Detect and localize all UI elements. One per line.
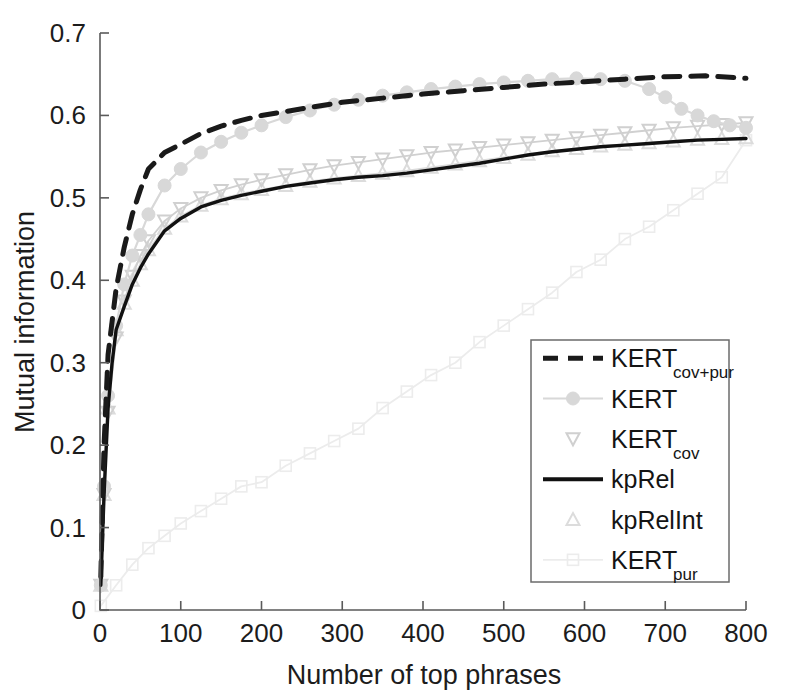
x-tick-label: 300 [321, 618, 364, 648]
data-point-marker [740, 121, 753, 134]
x-tick-label: 400 [401, 618, 444, 648]
y-tick-label: 0.7 [50, 18, 86, 48]
legend-label: KERT [611, 425, 677, 453]
data-point-marker [215, 135, 228, 148]
legend-label: KERT [611, 385, 677, 413]
data-point-marker [255, 119, 268, 132]
data-point-marker [707, 115, 720, 128]
y-tick-label: 0.1 [50, 513, 86, 543]
data-point-marker [194, 146, 207, 159]
data-point-marker [158, 179, 171, 192]
legend-label: kpRelInt [611, 506, 703, 534]
x-tick-label: 0 [93, 618, 107, 648]
chart-canvas: 00.10.20.30.40.50.60.7010020030040050060… [0, 0, 786, 699]
x-tick-label: 200 [240, 618, 283, 648]
y-tick-label: 0.2 [50, 430, 86, 460]
x-axis-title: Number of top phrases [287, 660, 562, 690]
data-point-marker [174, 163, 187, 176]
data-point-marker [235, 126, 248, 139]
legend-label: KERT [611, 344, 677, 372]
data-point-marker [691, 109, 704, 122]
data-point-marker [675, 102, 688, 115]
legend-sample-marker [567, 392, 580, 405]
legend-label: KERT [611, 546, 677, 574]
legend: KERTcov+purKERTKERTcovkpRelkpRelIntKERTp… [531, 340, 734, 584]
data-point-marker [126, 249, 139, 262]
data-point-marker [134, 228, 147, 241]
y-tick-label: 0.3 [50, 348, 86, 378]
data-point-marker [643, 83, 656, 96]
x-tick-label: 800 [724, 618, 767, 648]
x-tick-label: 500 [482, 618, 525, 648]
y-axis-title: Mutual information [10, 211, 40, 433]
legend-label: kpRel [611, 465, 675, 493]
y-tick-label: 0 [72, 595, 86, 625]
legend-label-subscript: pur [673, 565, 698, 584]
x-tick-label: 600 [563, 618, 606, 648]
x-tick-label: 700 [644, 618, 687, 648]
legend-label-subscript: cov [673, 444, 700, 463]
data-point-marker [659, 91, 672, 104]
y-tick-label: 0.6 [50, 100, 86, 130]
x-tick-label: 100 [159, 618, 202, 648]
data-point-marker [723, 119, 736, 132]
chart-figure: 00.10.20.30.40.50.60.7010020030040050060… [0, 0, 786, 699]
y-tick-label: 0.5 [50, 183, 86, 213]
data-point-marker [142, 208, 155, 221]
y-tick-label: 0.4 [50, 265, 86, 295]
legend-label-subscript: cov+pur [673, 363, 734, 382]
